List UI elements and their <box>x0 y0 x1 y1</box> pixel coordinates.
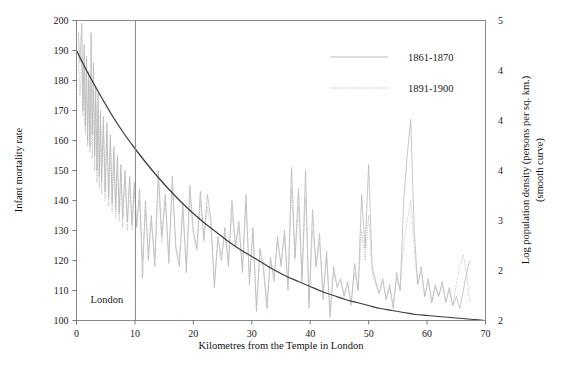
y-tick-label: 130 <box>54 225 69 236</box>
y-tick-label: 160 <box>54 135 69 146</box>
y-tick-label: 110 <box>54 285 69 296</box>
x-tick-label: 70 <box>481 328 491 339</box>
y-axis-title: Infant mortality rate <box>13 127 24 212</box>
y2-tick-label: 3 <box>498 215 503 226</box>
legend-label-1891-1900: 1891-1900 <box>408 83 454 94</box>
y2-axis-title-line1: Log population density (persons per sq. … <box>520 75 532 264</box>
y-tick-label: 140 <box>54 195 69 206</box>
x-tick-label: 30 <box>247 328 257 339</box>
x-tick-label: 20 <box>188 328 198 339</box>
x-tick-label: 40 <box>305 328 315 339</box>
y-tick-label: 180 <box>54 75 69 86</box>
y2-tick-label: 2 <box>498 265 503 276</box>
x-tick-label: 10 <box>130 328 140 339</box>
infant-mortality-chart: 010203040506070 100110120130140150160170… <box>0 0 571 375</box>
y2-tick-label: 5 <box>498 15 503 26</box>
x-axis-title: Kilometres from the Temple in London <box>199 340 365 351</box>
y-tick-label: 170 <box>54 105 69 116</box>
x-tick-label: 60 <box>422 328 432 339</box>
y2-axis-title-line2: (smooth curve) <box>534 138 546 202</box>
london-annotation: London <box>91 294 124 305</box>
y-tick-label: 190 <box>54 45 69 56</box>
x-tick-label: 0 <box>74 328 79 339</box>
y-tick-label: 150 <box>54 165 69 176</box>
annotations-layer: London <box>91 294 124 305</box>
figure-container: 010203040506070 100110120130140150160170… <box>0 0 571 375</box>
y-tick-label: 200 <box>54 15 69 26</box>
y2-tick-label: 4 <box>498 115 503 126</box>
y2-tick-label: 4 <box>498 65 503 76</box>
legend-label-1861-1870: 1861-1870 <box>408 52 454 63</box>
y2-tick-label: 4 <box>498 165 503 176</box>
y-tick-label: 120 <box>54 255 69 266</box>
y2-tick-label: 2 <box>498 315 503 326</box>
x-tick-label: 50 <box>364 328 374 339</box>
y-tick-label: 100 <box>54 315 69 326</box>
